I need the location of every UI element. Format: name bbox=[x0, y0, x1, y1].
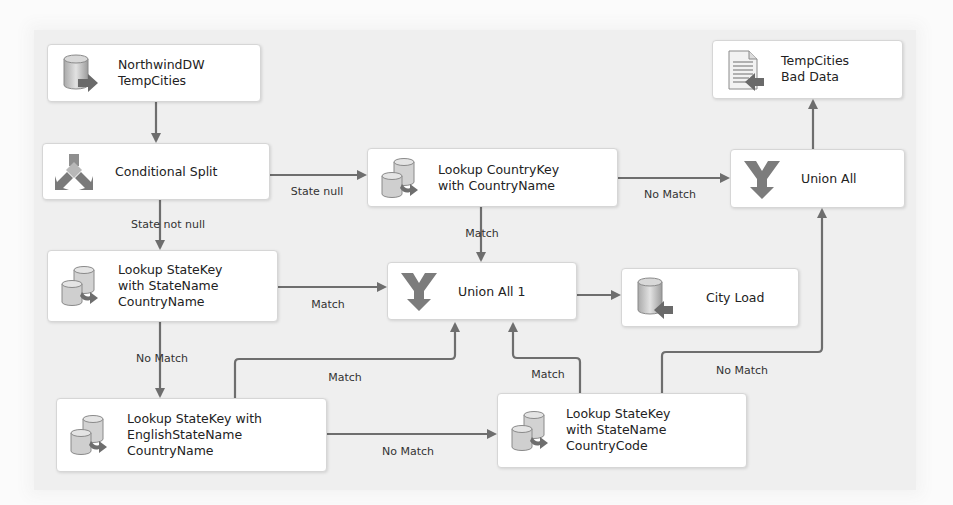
edge-label-code-match: Match bbox=[531, 368, 565, 381]
edge-english-match[interactable] bbox=[235, 324, 455, 398]
database-source-icon bbox=[58, 51, 100, 95]
node-lookup-statekey-countrycode[interactable]: Lookup StateKey with StateName CountryCo… bbox=[497, 393, 747, 468]
edge-label-state-match: Match bbox=[311, 298, 345, 311]
node-label: Lookup StateKey with StateName CountryNa… bbox=[118, 262, 222, 310]
node-label: NorthwindDW TempCities bbox=[118, 57, 205, 89]
database-destination-icon bbox=[632, 276, 674, 320]
node-label: TempCities Bad Data bbox=[781, 53, 849, 85]
lookup-icon bbox=[67, 413, 109, 457]
edge-label-country-match: Match bbox=[465, 227, 499, 240]
edge-label-state-not-null: State not null bbox=[131, 218, 205, 231]
node-label: City Load bbox=[706, 290, 764, 306]
conditional-split-icon bbox=[53, 150, 95, 194]
node-lookup-countrykey[interactable]: Lookup CountryKey with CountryName bbox=[367, 148, 618, 207]
node-northwinddw-tempcities[interactable]: NorthwindDW TempCities bbox=[47, 44, 261, 102]
node-label: Union All bbox=[801, 171, 857, 187]
lookup-icon bbox=[378, 156, 420, 200]
edge-label-english-match: Match bbox=[328, 371, 362, 384]
node-union-all-1[interactable]: Union All 1 bbox=[387, 262, 577, 320]
node-conditional-split[interactable]: Conditional Split bbox=[42, 143, 270, 200]
edge-label-country-no-match: No Match bbox=[644, 188, 696, 201]
node-label: Conditional Split bbox=[115, 164, 217, 180]
node-city-load[interactable]: City Load bbox=[621, 268, 799, 327]
lookup-icon bbox=[58, 264, 100, 308]
node-label: Lookup StateKey with EnglishStateName Co… bbox=[127, 411, 262, 459]
node-lookup-statekey-statename-countryname[interactable]: Lookup StateKey with StateName CountryNa… bbox=[47, 250, 278, 322]
node-union-all[interactable]: Union All bbox=[730, 149, 905, 208]
node-tempcities-bad-data[interactable]: TempCities Bad Data bbox=[712, 40, 903, 99]
node-label: Lookup CountryKey with CountryName bbox=[438, 162, 559, 194]
union-all-icon bbox=[398, 269, 440, 313]
edge-label-state-null: State null bbox=[291, 185, 344, 198]
flat-file-destination-icon bbox=[723, 48, 765, 92]
edge-label-state-no-match: No Match bbox=[136, 352, 188, 365]
node-label: Union All 1 bbox=[458, 284, 526, 300]
node-label: Lookup StateKey with StateName CountryCo… bbox=[566, 406, 670, 454]
edge-label-code-no-match: No Match bbox=[716, 364, 768, 377]
lookup-icon bbox=[508, 409, 550, 453]
node-lookup-statekey-englishstatename[interactable]: Lookup StateKey with EnglishStateName Co… bbox=[56, 398, 327, 472]
union-all-icon bbox=[741, 157, 783, 201]
edge-label-english-no-match: No Match bbox=[382, 445, 434, 458]
edge-code-match[interactable] bbox=[513, 324, 580, 393]
